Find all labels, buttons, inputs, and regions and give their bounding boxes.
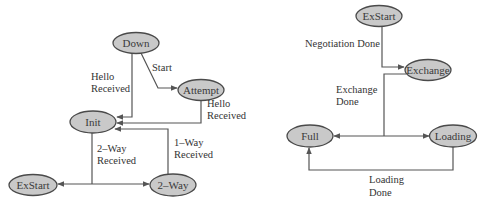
- label-hello-received-down-2: Received: [91, 83, 131, 94]
- label-exchange-done-2: Done: [336, 96, 359, 107]
- label-one-way-received: 1–Way: [174, 137, 204, 148]
- adjacency-state-machine: Negotiation Done Exchange Done Loading D…: [287, 6, 477, 199]
- svg-text:Full: Full: [301, 130, 319, 142]
- label-start: Start: [152, 62, 172, 73]
- edge-attempt-to-init: [117, 100, 201, 123]
- svg-text:Init: Init: [85, 116, 100, 128]
- state-two-way: 2–Way: [150, 174, 196, 196]
- state-exchange: Exchange: [405, 60, 451, 81]
- svg-text:Exchange: Exchange: [406, 64, 449, 76]
- label-one-way-received-2: Received: [174, 149, 214, 160]
- neighbor-state-machine: Start Hello Received Hello Received 2–Wa…: [9, 33, 247, 197]
- state-exstart-right: ExStart: [356, 6, 402, 27]
- state-init: Init: [70, 111, 116, 133]
- label-hello-received-attempt-2: Received: [207, 110, 247, 121]
- edge-exstart-to-exchange: [382, 27, 404, 67]
- state-exstart-left: ExStart: [9, 175, 57, 196]
- label-two-way-received: 2–Way: [97, 143, 127, 154]
- edge-loading-to-full: [309, 147, 453, 170]
- svg-text:Down: Down: [123, 37, 150, 49]
- label-loading-done-2: Done: [369, 187, 392, 198]
- label-hello-received-down: Hello: [91, 71, 114, 82]
- label-loading-done: Loading: [369, 174, 405, 185]
- svg-text:2–Way: 2–Way: [158, 179, 189, 191]
- state-full: Full: [287, 125, 333, 147]
- edge-exchange-trunk: [384, 74, 406, 136]
- label-negotiation-done: Negotiation Done: [305, 38, 380, 49]
- svg-text:Attempt: Attempt: [183, 84, 219, 96]
- label-two-way-received-2: Received: [97, 155, 137, 166]
- ospf-state-diagrams: Start Hello Received Hello Received 2–Wa…: [0, 0, 482, 207]
- state-attempt: Attempt: [178, 80, 224, 101]
- label-exchange-done: Exchange: [336, 84, 378, 95]
- svg-text:ExStart: ExStart: [363, 10, 396, 22]
- svg-text:Loading: Loading: [435, 130, 472, 142]
- state-down: Down: [113, 33, 159, 54]
- state-loading: Loading: [430, 125, 477, 147]
- svg-text:ExStart: ExStart: [17, 179, 50, 191]
